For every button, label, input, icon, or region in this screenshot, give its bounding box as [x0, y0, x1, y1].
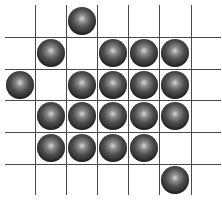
ball-piece-icon[interactable] — [161, 71, 189, 99]
board-cell-r0-c4[interactable] — [128, 5, 159, 37]
board-cell-r1-c0[interactable] — [5, 37, 35, 69]
board-cell-r0-c5[interactable] — [159, 5, 191, 37]
board-cell-r5-c3[interactable] — [97, 164, 128, 195]
board-cell-r0-c1[interactable] — [35, 5, 66, 37]
ball-piece-icon[interactable] — [99, 102, 127, 130]
ball-piece-icon[interactable] — [130, 39, 158, 67]
board-cell-r5-c1[interactable] — [35, 164, 66, 195]
board-cell-r5-c2[interactable] — [66, 164, 97, 195]
board-cell-r5-c4[interactable] — [128, 164, 159, 195]
ball-piece-icon[interactable] — [130, 102, 158, 130]
board-cell-r0-c6[interactable] — [191, 5, 221, 37]
game-board — [0, 0, 222, 201]
board-cell-r4-c6[interactable] — [191, 132, 221, 164]
ball-piece-icon[interactable] — [99, 39, 127, 67]
board-cell-r0-c3[interactable] — [97, 5, 128, 37]
board-cell-r3-c6[interactable] — [191, 100, 221, 132]
ball-piece-icon[interactable] — [130, 134, 158, 162]
board-cell-r2-c6[interactable] — [191, 69, 221, 100]
ball-piece-icon[interactable] — [99, 134, 127, 162]
ball-piece-icon[interactable] — [68, 7, 96, 35]
ball-piece-icon[interactable] — [68, 102, 96, 130]
ball-piece-icon[interactable] — [37, 134, 65, 162]
board-cell-r1-c6[interactable] — [191, 37, 221, 69]
board-cell-r5-c6[interactable] — [191, 164, 221, 195]
board-cell-r1-c2[interactable] — [66, 37, 97, 69]
board-cell-r0-c0[interactable] — [5, 5, 35, 37]
board-cell-r4-c5[interactable] — [159, 132, 191, 164]
ball-piece-icon[interactable] — [161, 39, 189, 67]
ball-piece-icon[interactable] — [130, 71, 158, 99]
board-cell-r4-c0[interactable] — [5, 132, 35, 164]
ball-piece-icon[interactable] — [37, 102, 65, 130]
board-cell-r3-c0[interactable] — [5, 100, 35, 132]
ball-piece-icon[interactable] — [99, 71, 127, 99]
board-cell-r2-c1[interactable] — [35, 69, 66, 100]
ball-piece-icon[interactable] — [6, 71, 34, 99]
ball-piece-icon[interactable] — [161, 166, 189, 194]
ball-piece-icon[interactable] — [68, 71, 96, 99]
ball-piece-icon[interactable] — [37, 39, 65, 67]
ball-piece-icon[interactable] — [68, 134, 96, 162]
board-cell-r5-c0[interactable] — [5, 164, 35, 195]
ball-piece-icon[interactable] — [161, 102, 189, 130]
